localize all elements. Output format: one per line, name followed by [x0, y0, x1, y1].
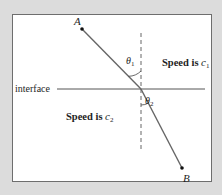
theta1-arc — [129, 71, 142, 76]
point-a-label: A — [74, 16, 81, 27]
theta1-label: θ1 — [126, 56, 134, 68]
point-b-dot — [180, 166, 184, 170]
refraction-diagram — [0, 0, 222, 195]
interface-label: interface — [15, 84, 50, 94]
speed-c1-label: Speed is c1 — [162, 57, 209, 70]
speed-c2-label: Speed is c2 — [66, 111, 113, 124]
point-b-label: B — [183, 173, 190, 184]
theta2-label: θ2 — [145, 96, 153, 108]
point-a-dot — [80, 27, 84, 31]
